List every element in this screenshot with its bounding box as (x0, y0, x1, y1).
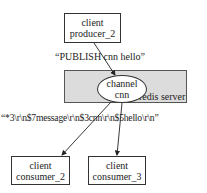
arrows (0, 0, 207, 193)
deliver-arrow-consumer-3 (117, 103, 122, 155)
pubsub-diagram: redis server channel cnn client producer… (0, 0, 207, 193)
publish-arrow (94, 43, 115, 75)
deliver-arrow-consumer-2 (62, 102, 111, 155)
